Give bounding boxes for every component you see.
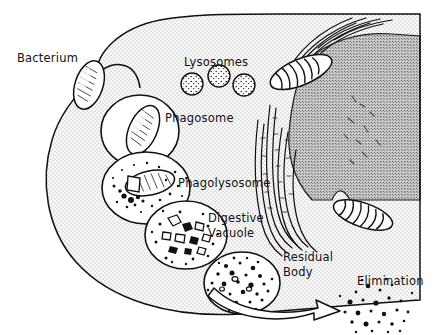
- label-phagosome: Phagosome: [165, 111, 234, 125]
- label-lysosomes: Lysosomes: [184, 55, 248, 69]
- label-residual-body-line2: Body: [283, 265, 313, 279]
- label-bacterium: Bacterium: [17, 51, 78, 65]
- label-phagolysosome: Phagolysosome: [178, 176, 271, 190]
- label-digestive-vacuole-line2: Vacuole: [208, 226, 254, 240]
- label-digestive-vacuole-line1: Digestive: [208, 211, 264, 225]
- label-residual-body-line1: Residual: [283, 250, 333, 264]
- diagram-canvas: Bacterium Lysosomes Phagosome Phagolysos…: [0, 0, 436, 335]
- label-elimination: Elimination: [357, 274, 424, 288]
- phagocytosis-diagram: Bacterium Lysosomes Phagosome Phagolysos…: [0, 0, 436, 335]
